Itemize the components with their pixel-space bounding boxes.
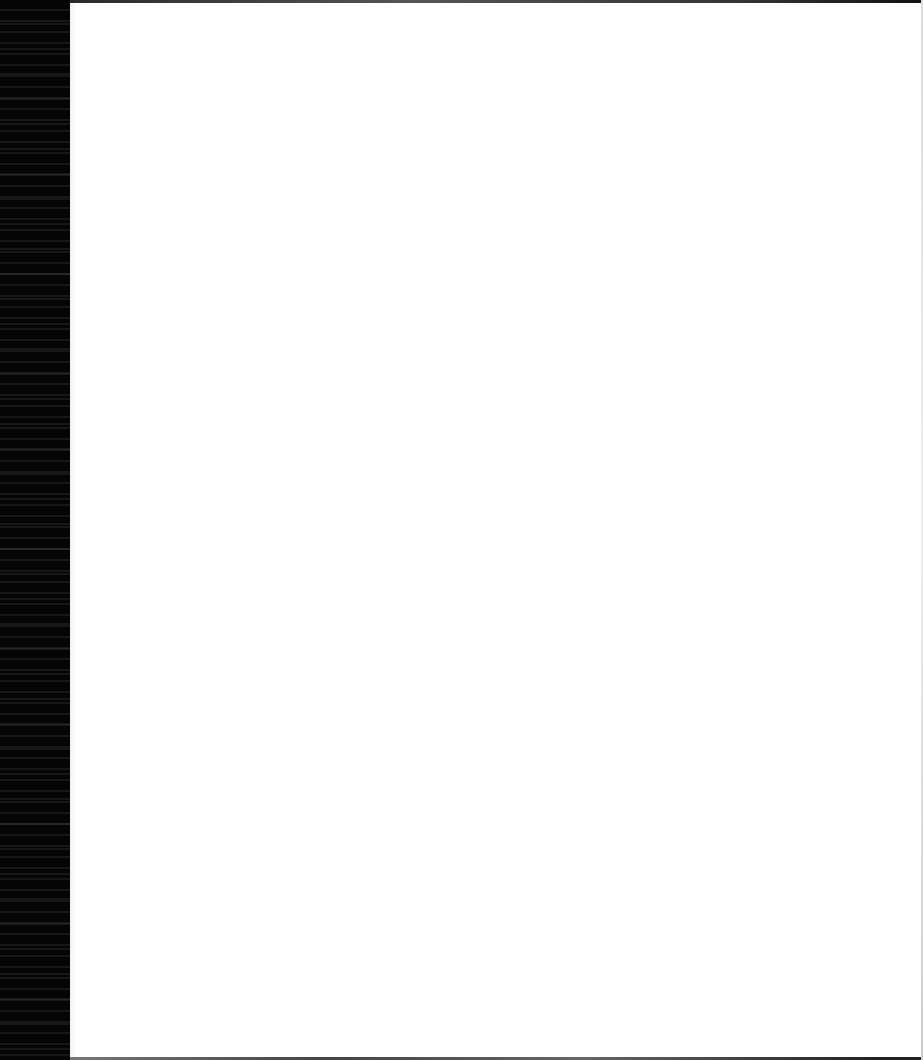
scan-binding-edge: [0, 0, 70, 1060]
blank-page: [70, 0, 923, 1060]
page-top-edge: [70, 0, 923, 3]
